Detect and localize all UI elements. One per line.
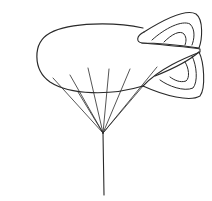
tether-strings [53,67,157,195]
blimp-drawing [0,0,212,201]
blimp-envelope [37,24,200,93]
lower-fin [143,52,204,98]
blimp-illustration [0,0,212,201]
upper-fin [138,13,202,48]
